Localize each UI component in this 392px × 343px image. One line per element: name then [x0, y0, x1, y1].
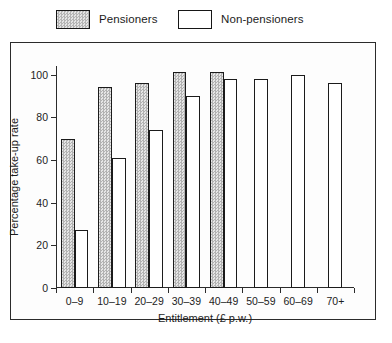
bar-non-pensioners-30-39 [186, 96, 200, 288]
x-axis-tick [317, 288, 318, 293]
x-axis-tick [242, 288, 243, 293]
x-axis-tick [280, 288, 281, 293]
legend-label-pensioners: Pensioners [99, 13, 158, 25]
y-axis-tick-label: 60 [36, 155, 48, 166]
x-axis-tick-label: 20–29 [135, 296, 164, 307]
bar-non-pensioners-70+ [328, 83, 342, 288]
x-axis-tick [354, 288, 355, 293]
legend-entry-pensioners: Pensioners [56, 8, 158, 30]
x-axis-tick [93, 288, 94, 293]
chart-legend: Pensioners Non-pensioners [0, 6, 392, 36]
legend-swatch-pensioners-icon [56, 10, 90, 29]
bar-pensioners-20-29 [135, 83, 149, 288]
x-axis-tick-label: 0–9 [66, 296, 84, 307]
y-axis-tick-label: 0 [42, 283, 48, 294]
y-axis-line [56, 66, 57, 288]
plot-area: 020406080100 0–910–1920–2930–3940–4950–5… [56, 66, 354, 288]
bar-pensioners-10-19 [98, 87, 112, 288]
y-axis-tick-label: 100 [30, 69, 48, 80]
y-axis-tick [51, 160, 56, 161]
y-axis-tick [51, 75, 56, 76]
x-axis-tick [131, 288, 132, 293]
x-axis-tick-label: 60–69 [284, 296, 313, 307]
x-axis-tick-label: 30–39 [172, 296, 201, 307]
bar-non-pensioners-20-29 [149, 130, 163, 288]
bar-pensioners-0-9 [61, 139, 75, 288]
x-axis-title: Entitlement (£ p.w.) [56, 312, 354, 324]
bar-non-pensioners-10-19 [112, 158, 126, 288]
y-axis-tick-label: 80 [36, 112, 48, 123]
y-axis-title: Percentage take-up rate [8, 118, 20, 236]
x-axis-tick [205, 288, 206, 293]
x-axis-tick-label: 40–49 [209, 296, 238, 307]
legend-entry-non-pensioners: Non-pensioners [178, 8, 304, 30]
y-axis-tick-label: 20 [36, 240, 48, 251]
y-axis-tick [51, 117, 56, 118]
bar-pensioners-30-39 [173, 72, 187, 288]
x-axis-tick [168, 288, 169, 293]
bar-non-pensioners-50-59 [254, 79, 268, 288]
legend-label-non-pensioners: Non-pensioners [221, 13, 304, 25]
x-axis-tick [56, 288, 57, 293]
x-axis-tick-label: 10–19 [97, 296, 126, 307]
y-axis-tick [51, 203, 56, 204]
x-axis-tick-label: 50–59 [246, 296, 275, 307]
x-axis-tick-label: 70+ [326, 296, 344, 307]
bar-pensioners-40-49 [210, 72, 224, 288]
bar-non-pensioners-0-9 [75, 230, 89, 288]
y-axis-tick [51, 245, 56, 246]
legend-swatch-non-pensioners-icon [178, 10, 212, 29]
bar-non-pensioners-60-69 [291, 75, 305, 288]
bar-non-pensioners-40-49 [224, 79, 238, 288]
y-axis-tick-label: 40 [36, 197, 48, 208]
